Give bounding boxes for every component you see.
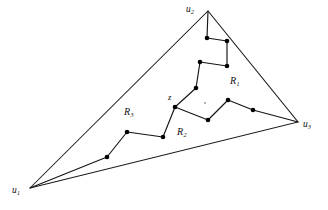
region-label-r3: R3 [124, 107, 134, 118]
tree-node-4 [225, 39, 230, 44]
tree-node-6 [206, 118, 211, 123]
region-label-r1-subscript: 1 [236, 80, 239, 87]
point-label-z: z [168, 93, 171, 102]
vertex-label-u1-subscript: 1 [17, 190, 20, 196]
figure-canvas: u1 u2 u3 R1 R2 R3 z [0, 0, 328, 210]
tree-node-z [173, 105, 178, 110]
tree-node-9 [161, 135, 166, 140]
vertex-label-u3-subscript: 3 [308, 124, 311, 130]
region-label-r1: R1 [230, 76, 240, 87]
region-label-r2: R2 [177, 127, 187, 138]
diagram-svg [0, 0, 328, 210]
vertex-label-u3: u3 [303, 120, 311, 131]
tree-node-1 [194, 86, 199, 91]
region-label-r2-subscript: 2 [183, 131, 186, 138]
interior-branch-to-u1 [30, 107, 175, 188]
interior-branch-to-u3 [175, 100, 298, 122]
tree-node-2 [198, 60, 203, 65]
vertex-label-u1: u1 [12, 186, 20, 197]
tree-node-3 [225, 64, 230, 69]
interior-speck [204, 102, 206, 104]
triangle-outline [30, 11, 298, 188]
region-label-r3-subscript: 3 [130, 111, 133, 118]
tree-node-8 [251, 108, 256, 113]
tree-node-7 [226, 98, 231, 103]
tree-node-10 [125, 130, 130, 135]
vertex-label-u2-subscript: 2 [191, 9, 194, 15]
tree-node-11 [105, 155, 110, 160]
vertex-label-u2: u2 [186, 5, 194, 16]
tree-node-5 [205, 36, 210, 41]
